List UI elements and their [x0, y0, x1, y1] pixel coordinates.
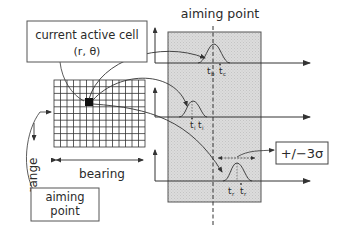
range-bearing-grid [54, 80, 145, 147]
bearing-label: bearing [79, 167, 125, 181]
sigma-label: +/−3σ [281, 146, 324, 161]
active-cell [85, 98, 93, 106]
range-label: range [26, 158, 40, 193]
aiming-point-box-line1: aiming [45, 190, 84, 204]
aiming-point-box-line2: point [50, 204, 80, 218]
active-cell-label: current active cell [35, 28, 139, 42]
diagram-canvas: aiming point tb tc ti ti tr tr +/−3σ [0, 0, 339, 235]
svg-text:b: b [211, 71, 215, 77]
aiming-point-title: aiming point [181, 6, 260, 21]
svg-text:c: c [223, 71, 226, 77]
active-cell-coords: (r, θ) [74, 45, 101, 58]
